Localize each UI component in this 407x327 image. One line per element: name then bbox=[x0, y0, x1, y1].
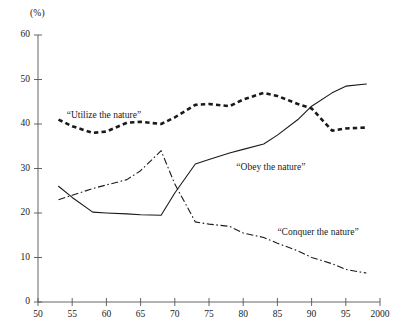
series-label-1: “Obey the nature” bbox=[236, 162, 305, 172]
y-axis-tick-label: 0 bbox=[6, 296, 30, 306]
series-label-0: “Utilize the nature” bbox=[67, 110, 141, 120]
series-line-2 bbox=[59, 151, 367, 273]
axis-lines bbox=[38, 35, 380, 302]
y-axis-tick-label: 30 bbox=[6, 163, 30, 173]
plot-area bbox=[0, 0, 407, 327]
series-label-2: “Conquer the nature” bbox=[277, 227, 358, 237]
y-axis-tick-label: 60 bbox=[6, 29, 30, 39]
y-axis-tick-label: 20 bbox=[6, 207, 30, 217]
line-chart: (%) 010203040506050556065707580859095200… bbox=[0, 0, 407, 327]
y-axis-tick-label: 40 bbox=[6, 118, 30, 128]
y-axis-tick-label: 10 bbox=[6, 252, 30, 262]
y-axis-tick-label: 50 bbox=[6, 74, 30, 84]
x-axis-tick-label: 2000 bbox=[360, 309, 400, 319]
